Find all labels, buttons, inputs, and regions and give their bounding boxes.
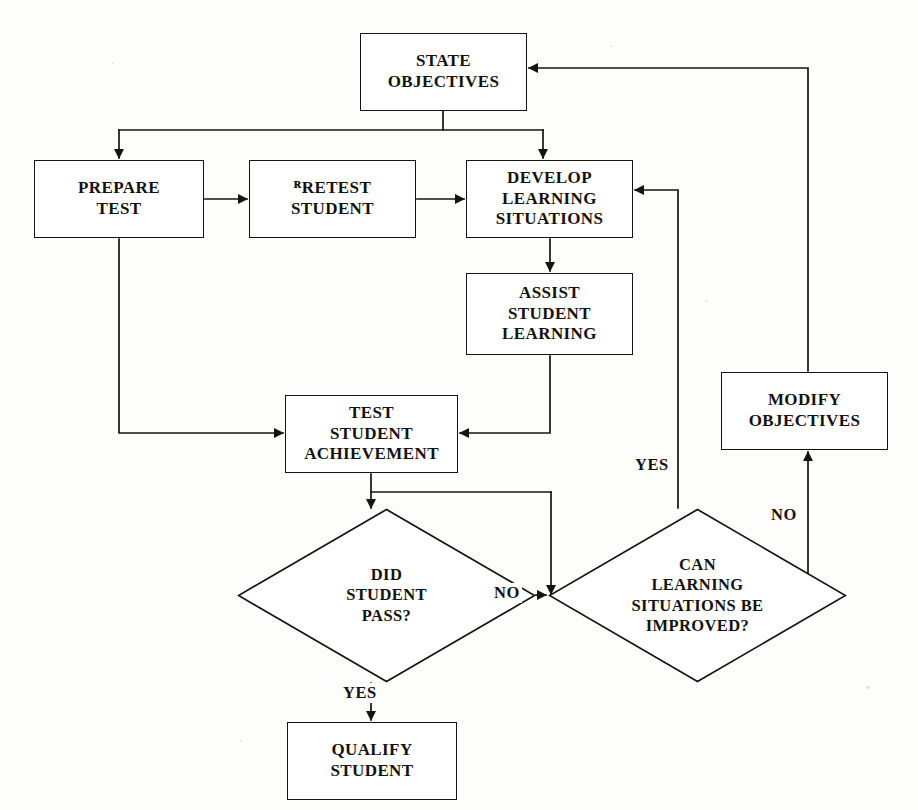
scan-speck bbox=[705, 300, 708, 302]
node-modify-objectives-label: MODIFY OBJECTIVES bbox=[749, 390, 861, 431]
node-develop-learning-situations[interactable]: DEVELOP LEARNING SITUATIONS bbox=[466, 160, 633, 238]
node-qualify-student[interactable]: QUALIFY STUDENT bbox=[287, 722, 457, 800]
node-did-student-pass-label: DID STUDENT PASS? bbox=[340, 565, 433, 625]
node-assist-student-learning-label: ASSIST STUDENT LEARNING bbox=[502, 283, 597, 345]
edge-prepare-test-to-test-student-achievement bbox=[119, 239, 283, 433]
node-test-student-achievement-label: TEST STUDENT ACHIEVEMENT bbox=[304, 403, 439, 465]
node-can-learning-situations-be-improved[interactable]: CAN LEARNING SITUATIONS BE IMPROVED? bbox=[548, 508, 847, 683]
scan-speck bbox=[610, 45, 612, 47]
node-modify-objectives[interactable]: MODIFY OBJECTIVES bbox=[721, 372, 888, 450]
node-prepare-test-label: PREPARE TEST bbox=[78, 178, 160, 219]
edge-assist-to-test-student-achievement bbox=[460, 356, 550, 433]
node-can-learning-situations-be-improved-label: CAN LEARNING SITUATIONS BE IMPROVED? bbox=[626, 555, 770, 636]
flowchart-canvas: STATE OBJECTIVES PREPARE TEST ᴿRETEST ST… bbox=[0, 0, 918, 810]
scan-speck bbox=[240, 740, 242, 742]
scan-speck bbox=[112, 62, 114, 64]
scan-speck bbox=[866, 686, 870, 689]
node-develop-learning-situations-label: DEVELOP LEARNING SITUATIONS bbox=[496, 168, 604, 230]
node-assist-student-learning[interactable]: ASSIST STUDENT LEARNING bbox=[466, 273, 633, 355]
node-state-objectives-label: STATE OBJECTIVES bbox=[388, 51, 500, 92]
edge-label-yes-pass: YES bbox=[341, 683, 379, 703]
node-state-objectives[interactable]: STATE OBJECTIVES bbox=[360, 33, 527, 111]
node-pretest-student[interactable]: ᴿRETEST STUDENT bbox=[249, 160, 416, 238]
node-test-student-achievement[interactable]: TEST STUDENT ACHIEVEMENT bbox=[285, 395, 458, 473]
node-pretest-student-label: ᴿRETEST STUDENT bbox=[291, 178, 374, 219]
edge-label-yes-improve: YES bbox=[633, 455, 671, 475]
node-qualify-student-label: QUALIFY STUDENT bbox=[330, 740, 413, 781]
edge-label-no-pass: NO bbox=[492, 583, 522, 603]
edge-label-no-improve: NO bbox=[769, 505, 799, 525]
node-prepare-test[interactable]: PREPARE TEST bbox=[34, 160, 204, 238]
